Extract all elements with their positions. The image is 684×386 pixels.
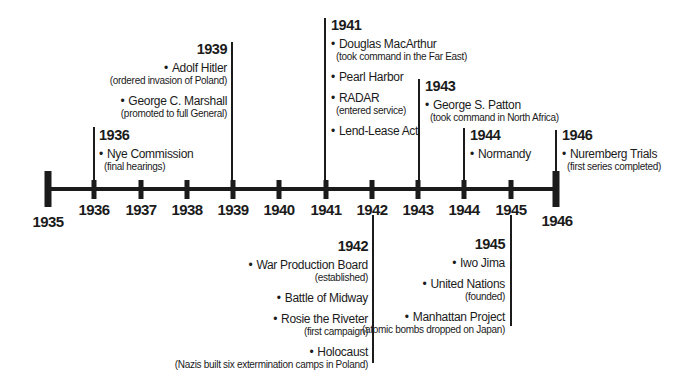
axis-year-1941: 1941: [311, 201, 342, 218]
event-name: Nuremberg Trials: [570, 147, 657, 161]
event-name-row: •Holocaust: [175, 346, 368, 359]
event-name: Holocaust: [317, 345, 368, 359]
event-name: Manhattan Project: [413, 310, 505, 324]
event-name: Nye Commission: [107, 147, 194, 161]
bullet-icon: •: [405, 310, 409, 324]
callout-line-1945: [510, 215, 512, 326]
event-item: •Adolf Hitler (ordered invasion of Polan…: [110, 62, 227, 87]
event-detail: (promoted to full General): [110, 108, 227, 120]
bullet-icon: •: [331, 91, 335, 105]
event-name: Battle of Midway: [285, 291, 368, 305]
event-name-row: •United Nations: [362, 278, 505, 291]
event-name-row: •Manhattan Project: [362, 311, 505, 324]
bullet-icon: •: [248, 258, 252, 272]
event-name: Douglas MacArthur: [339, 37, 437, 51]
event-name-row: •War Production Board: [175, 259, 368, 272]
callout-line-1946: [555, 130, 557, 171]
tick-1938: [185, 180, 190, 199]
callout-1946: 1946 •Nuremberg Trials (first series com…: [562, 128, 661, 173]
event-name: Iwo Jima: [460, 256, 505, 270]
event-name: United Nations: [430, 277, 505, 291]
bullet-icon: •: [562, 147, 566, 161]
event-item: •Manhattan Project (atomic bombs dropped…: [362, 311, 505, 336]
event-item: •Douglas MacArthur (took command in the …: [331, 38, 467, 63]
bullet-icon: •: [423, 277, 427, 291]
event-detail: (established): [175, 272, 368, 284]
event-detail: (Nazis built six extermination camps in …: [175, 359, 368, 371]
event-name: RADAR: [339, 91, 380, 105]
callout-line-1939: [231, 42, 233, 187]
event-name: War Production Board: [256, 258, 368, 272]
event-name-row: •Iwo Jima: [362, 257, 505, 270]
event-item: •Rosie the Riveter (first campaign): [175, 313, 368, 338]
event-name-row: •Rosie the Riveter: [175, 313, 368, 326]
axis-year-1944: 1944: [449, 201, 480, 218]
event-name-row: •Douglas MacArthur: [331, 38, 467, 51]
event-item: •Holocaust (Nazis built six exterminatio…: [175, 346, 368, 371]
axis-year-1936: 1936: [79, 201, 110, 218]
callout-year: 1941: [331, 18, 467, 33]
axis-year-1943: 1943: [403, 201, 434, 218]
timeline-axis: [48, 187, 558, 191]
tick-1945: [509, 180, 514, 199]
axis-year-1938: 1938: [172, 201, 203, 218]
callout-1942: 1942 •War Production Board (established)…: [175, 239, 368, 371]
bullet-icon: •: [99, 147, 103, 161]
bullet-icon: •: [331, 70, 335, 84]
bullet-icon: •: [277, 291, 281, 305]
event-name-row: •Adolf Hitler: [110, 62, 227, 75]
event-detail: (took command in the Far East): [331, 51, 467, 63]
end-tick-1946: [553, 171, 560, 207]
callout-year: 1942: [175, 239, 368, 254]
axis-year-1940: 1940: [264, 201, 295, 218]
event-name-row: •Lend-Lease Act: [331, 125, 467, 138]
bullet-icon: •: [273, 312, 277, 326]
callout-line-1941: [324, 18, 326, 187]
event-detail: (took command in North Africa): [425, 112, 559, 124]
bullet-icon: •: [164, 61, 168, 75]
event-item: •Lend-Lease Act: [331, 125, 467, 138]
bullet-icon: •: [425, 98, 429, 112]
axis-year-1939: 1939: [218, 201, 249, 218]
event-item: •George S. Patton (took command in North…: [425, 99, 559, 124]
event-detail: (first campaign): [175, 326, 368, 338]
tick-1942: [370, 180, 375, 199]
callout-year: 1939: [110, 42, 227, 57]
event-name-row: •George S. Patton: [425, 99, 559, 112]
event-name: Pearl Harbor: [339, 70, 403, 84]
timeline-diagram: 1935 1936 1937 1938 1939 1940 1941 1942 …: [0, 0, 684, 386]
bullet-icon: •: [331, 37, 335, 51]
end-tick-1935: [45, 171, 52, 207]
tick-1937: [139, 180, 144, 199]
event-detail: (ordered invasion of Poland): [110, 75, 227, 87]
event-name-row: •Nye Commission: [99, 148, 193, 161]
event-item: •Normandy: [470, 148, 531, 161]
bullet-icon: •: [452, 256, 456, 270]
event-item: •Battle of Midway: [175, 292, 368, 305]
tick-1940: [277, 180, 282, 199]
callout-year: 1936: [99, 128, 193, 143]
event-name: Rosie the Riveter: [281, 312, 368, 326]
event-name-row: •George C. Marshall: [110, 95, 227, 108]
event-item: •Nye Commission (final hearings): [99, 148, 193, 173]
callout-year: 1946: [562, 128, 661, 143]
event-detail: (founded): [362, 291, 505, 303]
axis-year-1935: 1935: [33, 213, 64, 230]
event-name: Lend-Lease Act: [339, 124, 418, 138]
event-item: •War Production Board (established): [175, 259, 368, 284]
event-item: •United Nations (founded): [362, 278, 505, 303]
callout-line-1936: [93, 127, 95, 187]
axis-year-1946: 1946: [542, 212, 573, 229]
bullet-icon: •: [470, 147, 474, 161]
event-name-row: •Nuremberg Trials: [562, 148, 661, 161]
event-detail: (first series completed): [562, 161, 661, 173]
callout-year: 1944: [470, 128, 531, 143]
event-name: Adolf Hitler: [172, 61, 227, 75]
callout-1945: 1945 •Iwo Jima •United Nations (founded)…: [362, 237, 505, 336]
callout-year: 1945: [362, 237, 505, 252]
event-name: George S. Patton: [433, 98, 521, 112]
bullet-icon: •: [309, 345, 313, 359]
callout-1939: 1939 •Adolf Hitler (ordered invasion of …: [110, 42, 227, 120]
event-item: •Iwo Jima: [362, 257, 505, 270]
callout-1944: 1944 •Normandy: [470, 128, 531, 161]
